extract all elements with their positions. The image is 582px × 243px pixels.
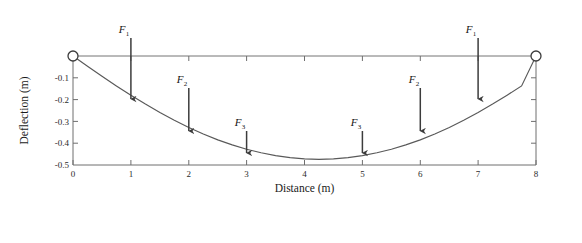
force-subscript: 1: [473, 30, 477, 38]
force-symbol: F: [350, 116, 358, 128]
y-axis-title: Deflection (m): [18, 76, 31, 144]
x-tick-label: 8: [534, 169, 539, 179]
force-subscript: 2: [184, 80, 188, 88]
x-axis-title: Distance (m): [275, 182, 335, 195]
plot-canvas: -0.1 -0.2 -0.3 -0.4 -0.5 0 1 2 3 4 5 6 7…: [0, 0, 582, 243]
force-labels: F1 F2 F3 F3 F2 F1: [118, 23, 477, 131]
force-label-f2-left: F2: [176, 73, 188, 88]
force-symbol: F: [465, 23, 473, 35]
y-ticks: [73, 78, 536, 143]
force-label-f2-right: F2: [408, 73, 420, 88]
force-symbol: F: [176, 73, 184, 85]
x-ticks-bottom: [73, 160, 536, 165]
left-support-marker: [68, 51, 78, 61]
deflection-curve: [73, 56, 536, 159]
x-tick-label: 5: [360, 169, 365, 179]
x-tick-label: 4: [302, 169, 307, 179]
x-tick-label: 2: [187, 169, 192, 179]
y-tick-label: -0.2: [55, 95, 69, 105]
axis-frame: [73, 56, 536, 165]
force-label-f3-left: F3: [234, 116, 246, 131]
y-tick-label: -0.5: [55, 160, 70, 170]
force-symbol: F: [234, 116, 242, 128]
right-support-marker: [531, 51, 541, 61]
y-tick-label: -0.1: [55, 73, 69, 83]
force-subscript: 3: [242, 123, 246, 131]
force-label-f1-left: F1: [118, 23, 130, 38]
y-tick-label: -0.3: [55, 117, 70, 127]
x-tick-label: 0: [71, 169, 76, 179]
x-ticks-top: [73, 56, 536, 61]
x-tick-label: 7: [476, 169, 481, 179]
force-subscript: 1: [126, 30, 130, 38]
x-tick-label: 3: [244, 169, 249, 179]
y-tick-label: -0.4: [55, 138, 70, 148]
force-symbol: F: [118, 23, 126, 35]
y-tick-labels: -0.1 -0.2 -0.3 -0.4 -0.5: [55, 73, 70, 170]
force-label-f3-right: F3: [350, 116, 362, 131]
x-tick-label: 1: [129, 169, 134, 179]
x-tick-labels: 0 1 2 3 4 5 6 7 8: [71, 169, 539, 179]
force-subscript: 2: [416, 80, 420, 88]
force-arrows: [131, 38, 478, 153]
x-tick-label: 6: [418, 169, 423, 179]
force-subscript: 3: [358, 123, 362, 131]
force-label-f1-right: F1: [465, 23, 477, 38]
force-symbol: F: [408, 73, 416, 85]
figure-deflection-plot: -0.1 -0.2 -0.3 -0.4 -0.5 0 1 2 3 4 5 6 7…: [0, 0, 582, 243]
